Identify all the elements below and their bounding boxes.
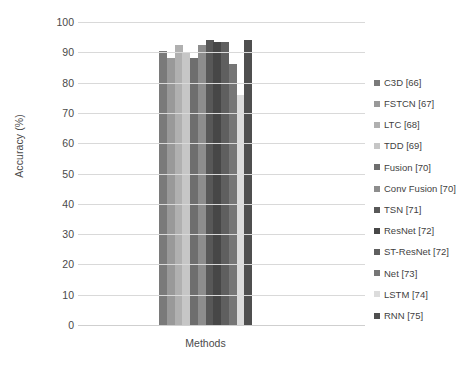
legend-item[interactable]: Fusion [70] (374, 157, 464, 178)
y-axis-tick-label: 40 (34, 199, 74, 210)
y-axis-tick-label: 20 (34, 259, 74, 270)
y-axis-tick-label: 60 (34, 138, 74, 149)
legend-item[interactable]: Conv Fusion [70] (374, 178, 464, 199)
gridline (78, 174, 365, 175)
plot-area (78, 22, 365, 325)
legend-item-label: ResNet [72] (384, 226, 434, 236)
gridline (78, 264, 365, 265)
legend-item-label: LSTM [74] (384, 290, 428, 300)
gridline (78, 113, 365, 114)
legend-swatch-icon (374, 270, 380, 276)
gridline (78, 52, 365, 53)
legend-swatch-icon (374, 101, 380, 107)
legend-item[interactable]: TDD [69] (374, 136, 464, 157)
gridline (78, 204, 365, 205)
bar-chart: Accuracy (%) 1009080706050403020100 Meth… (0, 0, 465, 366)
legend-swatch-icon (374, 291, 380, 297)
y-axis-tick-labels: 1009080706050403020100 (34, 22, 74, 325)
gridline (78, 234, 365, 235)
y-axis-title: Accuracy (%) (13, 91, 25, 201)
legend-item[interactable]: ResNet [72] (374, 220, 464, 241)
legend-item-label: ST-ResNet [72] (384, 247, 449, 257)
legend-item-label: Conv Fusion [70] (384, 184, 456, 194)
legend-swatch-icon (374, 228, 380, 234)
y-axis-tick-label: 50 (34, 169, 74, 180)
x-axis-title: Methods (148, 337, 263, 349)
legend-item-label: RNN [75] (384, 311, 423, 321)
legend-swatch-icon (374, 122, 380, 128)
legend-item-label: LTC [68] (384, 120, 420, 130)
chart-legend: C3D [66]FSTCN [67]LTC [68]TDD [69]Fusion… (374, 72, 464, 326)
legend-item[interactable]: LSTM [74] (374, 284, 464, 305)
gridline (78, 83, 365, 84)
legend-item[interactable]: Net [73] (374, 263, 464, 284)
legend-swatch-icon (374, 143, 380, 149)
legend-item[interactable]: LTC [68] (374, 114, 464, 135)
legend-item-label: Fusion [70] (384, 163, 431, 173)
legend-swatch-icon (374, 249, 380, 255)
y-axis-tick-label: 0 (34, 320, 74, 331)
legend-item[interactable]: TSN [71] (374, 199, 464, 220)
legend-item[interactable]: RNN [75] (374, 305, 464, 326)
axis-baseline (78, 325, 365, 326)
y-axis-tick-label: 90 (34, 47, 74, 58)
legend-swatch-icon (374, 164, 380, 170)
legend-item[interactable]: FSTCN [67] (374, 93, 464, 114)
legend-item-label: C3D [66] (384, 78, 422, 88)
legend-swatch-icon (374, 207, 380, 213)
legend-swatch-icon (374, 313, 380, 319)
y-axis-tick-label: 10 (34, 290, 74, 301)
gridline (78, 22, 365, 23)
legend-item-label: FSTCN [67] (384, 99, 434, 109)
gridline (78, 295, 365, 296)
y-axis-tick-label: 80 (34, 78, 74, 89)
y-axis-tick-label: 30 (34, 229, 74, 240)
y-axis-tick-label: 100 (34, 17, 74, 28)
gridline (78, 143, 365, 144)
legend-swatch-icon (374, 186, 380, 192)
legend-item[interactable]: C3D [66] (374, 72, 464, 93)
legend-item[interactable]: ST-ResNet [72] (374, 242, 464, 263)
legend-swatch-icon (374, 80, 380, 86)
legend-item-label: TDD [69] (384, 141, 422, 151)
legend-item-label: Net [73] (384, 269, 417, 279)
y-axis-tick-label: 70 (34, 108, 74, 119)
legend-item-label: TSN [71] (384, 205, 422, 215)
